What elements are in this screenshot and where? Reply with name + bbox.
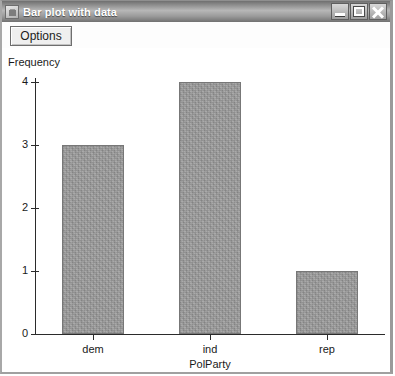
maximize-icon[interactable] <box>350 3 368 20</box>
x-tick-label: dem <box>82 343 103 355</box>
y-tick: 3 <box>31 145 39 146</box>
x-tick-mark <box>93 334 94 340</box>
x-axis-label: PolParty <box>189 358 231 370</box>
y-tick-mark <box>31 82 39 83</box>
toolbar: Options <box>2 22 390 48</box>
y-tick-mark <box>31 208 39 209</box>
options-button[interactable]: Options <box>10 26 72 46</box>
bar <box>62 145 124 334</box>
y-tick: 0 <box>31 334 39 335</box>
y-tick-label: 4 <box>22 75 28 87</box>
x-tick-mark <box>210 334 211 340</box>
y-axis-line <box>35 78 36 335</box>
minimize-icon[interactable] <box>331 3 349 20</box>
close-icon[interactable] <box>369 3 387 20</box>
title-bar[interactable]: Bar plot with data <box>2 1 390 22</box>
app-window-icon <box>5 5 19 19</box>
x-tick-label: rep <box>319 343 335 355</box>
y-tick-label: 2 <box>22 201 28 213</box>
window-title: Bar plot with data <box>23 6 331 18</box>
x-tick-label: ind <box>203 343 218 355</box>
y-tick-label: 3 <box>22 138 28 150</box>
y-tick: 4 <box>31 82 39 83</box>
y-tick: 1 <box>31 271 39 272</box>
bar-chart: Frequency 01234 demindrep PolParty <box>2 48 390 372</box>
y-tick-mark <box>31 334 39 335</box>
y-tick-label: 0 <box>22 327 28 339</box>
x-tick-mark <box>327 334 328 340</box>
application-window: Bar plot with data Options Frequency 012… <box>0 0 395 376</box>
y-tick-mark <box>31 271 39 272</box>
y-tick: 2 <box>31 208 39 209</box>
y-tick-mark <box>31 145 39 146</box>
bar <box>296 271 358 334</box>
y-tick-label: 1 <box>22 264 28 276</box>
y-axis-label: Frequency <box>8 56 60 68</box>
bar <box>179 82 241 334</box>
